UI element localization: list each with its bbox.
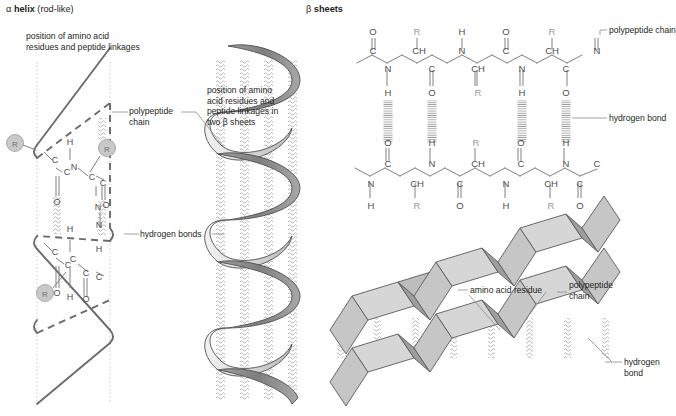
svg-text:C: C [83,268,90,278]
svg-text:H: H [67,292,74,302]
r-group-circle: R [99,140,116,157]
svg-text:O: O [576,200,583,211]
svg-text:O: O [562,87,569,98]
label-polypeptide-chain-helix: polypeptide chain [129,106,173,127]
svg-text:R: R [414,26,421,37]
svg-text:H: H [519,87,526,98]
alpha-helix-title-bold: helix [14,4,35,14]
svg-text:H: H [368,200,375,211]
svg-text:H: H [429,137,436,148]
svg-text:C: C [518,158,525,169]
r-group-label: R [12,140,18,149]
label-hydrogen-bond-bottom: hydrogen bond [624,357,660,378]
svg-text:N: N [368,178,375,189]
svg-text:C: C [385,158,392,169]
svg-text:C: C [577,178,584,189]
svg-text:N: N [385,63,392,74]
svg-text:C: C [96,272,103,282]
svg-text:C: C [563,63,570,74]
alpha-helix-title-prefix: α [6,4,14,14]
svg-text:H: H [503,200,510,211]
svg-text:N: N [95,202,102,212]
svg-text:N: N [71,162,78,172]
svg-text:CH: CH [471,158,485,169]
svg-text:O: O [384,137,391,148]
svg-text:N: N [519,63,526,74]
beta-lower-atom-labels: O H R O H C N CH C N C N CH C N CH C H R… [368,137,601,211]
svg-text:N: N [563,158,570,169]
svg-text:H: H [67,224,74,234]
svg-text:N: N [594,45,601,56]
svg-text:N: N [429,158,436,169]
svg-text:C: C [594,158,601,169]
svg-text:C: C [89,172,96,182]
svg-text:C: C [503,45,510,56]
svg-text:R: R [548,200,555,211]
beta-sheets-title-prefix: β [306,4,314,14]
svg-text:N: N [459,45,466,56]
svg-text:R: R [549,26,556,37]
svg-text:CH: CH [412,45,426,56]
label-polypeptide-chain-beta-top: polypeptide chain [609,25,676,36]
svg-text:O: O [102,200,109,210]
beta-chem-hydrogen-bonds [384,100,571,142]
beta-sheets-caption: position of amino acid residues and pept… [207,85,278,127]
svg-text:O: O [82,294,89,304]
svg-text:CH: CH [544,178,558,189]
svg-text:CH: CH [410,178,424,189]
beta-chem-leader-lines [572,30,607,118]
r-group-circle: R [7,135,24,152]
svg-text:C: C [457,178,464,189]
svg-text:O: O [53,288,60,298]
svg-text:H: H [385,87,392,98]
svg-text:H: H [459,26,466,37]
svg-text:N: N [503,178,510,189]
r-group-circle: R [37,285,54,302]
beta-sheets-title-bold: sheets [314,4,343,14]
svg-text:C: C [52,155,59,165]
r-group-label: R [104,145,110,154]
svg-text:CH: CH [471,63,485,74]
beta-lower-chain [355,168,597,176]
alpha-helix-caption: position of amino acid residues and pept… [26,31,140,52]
svg-text:H: H [563,137,570,148]
r-group-label: R [42,290,48,299]
svg-text:H: H [96,244,103,254]
label-polypeptide-chain-beta-bottom: polypeptide chain [569,280,613,301]
alpha-helix-title-suffix: (rod-like) [35,4,74,14]
svg-text:C: C [370,45,377,56]
svg-text:C: C [70,254,77,264]
svg-text:O: O [428,87,435,98]
svg-text:R: R [475,87,482,98]
svg-text:R: R [473,137,480,148]
label-hydrogen-bond-beta: hydrogen bond [609,113,666,124]
svg-text:O: O [53,197,60,207]
beta-upper-chain [357,55,582,63]
alpha-helix-title: α helix (rod-like) [6,4,74,15]
label-hydrogen-bonds-helix: hydrogen bonds [140,229,202,240]
svg-text:C: C [100,178,107,188]
beta-sheets-panel: O R H O R C CH N C CH N N C CH N C H O R… [330,26,622,406]
svg-text:C: C [429,63,436,74]
svg-text:C: C [64,167,71,177]
svg-text:O: O [517,137,524,148]
beta-lower-substituent-bonds [370,148,581,198]
svg-text:H: H [67,137,74,147]
svg-text:O: O [369,26,376,37]
svg-text:O: O [456,200,463,211]
svg-text:N: N [96,220,103,230]
label-amino-acid-residue: amino acid residue [470,285,542,296]
svg-text:C: C [52,247,59,257]
svg-text:CH: CH [545,45,559,56]
svg-text:O: O [502,26,509,37]
svg-text:R: R [414,200,421,211]
beta-sheets-title: β sheets [306,4,343,15]
